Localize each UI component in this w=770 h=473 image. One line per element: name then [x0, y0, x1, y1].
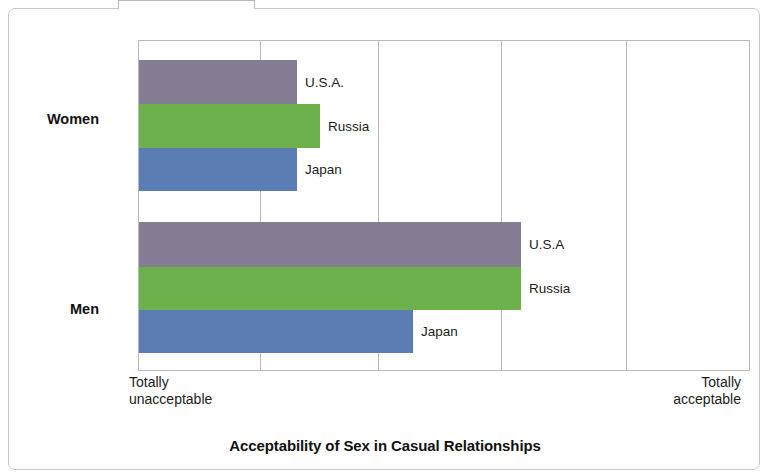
bar-men-usa	[139, 222, 521, 267]
bar-men-russia	[139, 267, 521, 310]
chart-plot-area: U.S.A. Russia Japan U.S.A Russia Japan	[138, 40, 750, 371]
bar-men-japan	[139, 310, 413, 353]
bar-label-women-usa: U.S.A.	[305, 76, 344, 90]
axis-caption-totally-acceptable: Totally acceptable	[581, 374, 741, 408]
group-label-men: Men	[0, 302, 99, 317]
bar-label-men-japan: Japan	[421, 325, 458, 339]
bar-women-russia	[139, 104, 320, 148]
bar-women-usa	[139, 60, 297, 104]
chart-title: Acceptability of Sex in Casual Relations…	[0, 437, 770, 454]
bar-women-japan	[139, 148, 297, 191]
gridline-3	[501, 41, 502, 370]
bar-label-women-japan: Japan	[305, 163, 342, 177]
card-top-notch	[118, 0, 255, 9]
bar-label-men-russia: Russia	[529, 282, 570, 296]
bar-label-women-russia: Russia	[328, 120, 369, 134]
group-label-women: Women	[0, 112, 99, 127]
bar-label-men-usa: U.S.A	[529, 238, 564, 252]
axis-caption-totally-unacceptable: Totally unacceptable	[129, 374, 212, 408]
gridline-4	[626, 41, 627, 370]
